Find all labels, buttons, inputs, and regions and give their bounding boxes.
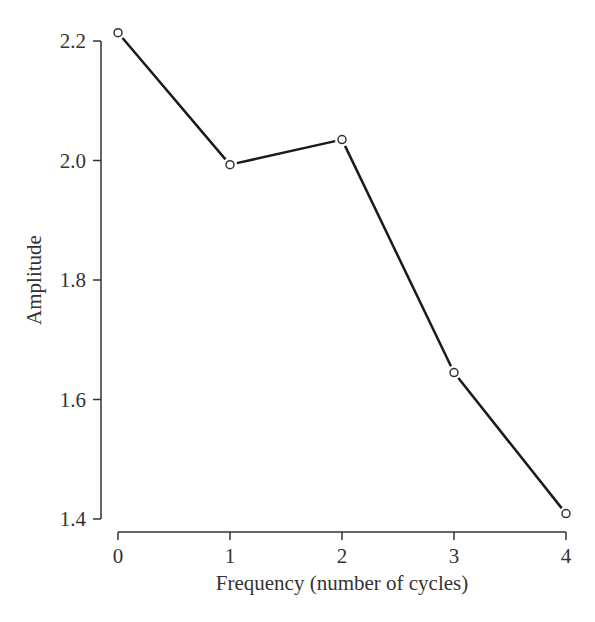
data-point-marker [338,136,346,144]
y-axis-title: Amplitude [22,235,46,325]
series-segment [458,378,561,508]
y-tick-label: 1.6 [60,388,86,412]
data-point-marker [450,369,458,377]
y-tick-label: 1.4 [60,507,87,531]
data-point-marker [562,510,570,518]
x-tick-label: 1 [225,544,236,568]
y-axis: 1.41.61.82.02.2 [60,29,101,531]
x-tick-label: 0 [113,544,124,568]
data-point-marker [114,29,122,37]
line-chart: 1.41.61.82.02.2 01234 Amplitude Frequenc… [0,0,595,622]
series-segment [123,38,226,159]
series-segment [237,141,335,163]
x-tick-label: 3 [449,544,460,568]
x-axis-title: Frequency (number of cycles) [216,571,468,595]
data-series [114,29,570,518]
x-axis: 01234 [113,532,572,568]
y-tick-label: 1.8 [60,268,86,292]
series-segment [345,146,451,366]
x-tick-label: 2 [337,544,348,568]
x-tick-label: 4 [561,544,572,568]
data-point-marker [226,161,234,169]
y-tick-label: 2.0 [60,149,86,173]
y-tick-label: 2.2 [60,29,86,53]
